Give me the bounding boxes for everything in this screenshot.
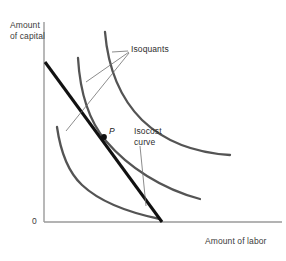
origin-label: 0 <box>32 216 37 226</box>
point-p-label: P <box>109 126 115 136</box>
y-axis-label: Amount of capital <box>10 20 45 41</box>
x-axis-label: Amount of labor <box>205 236 267 247</box>
isocost-annotation-label: Isocost curve <box>134 126 162 148</box>
tangency-point-marker <box>101 134 107 140</box>
leader-line-isoquant-low <box>66 53 129 131</box>
isoquants-annotation-label: Isoquants <box>131 44 169 55</box>
leader-line-isoquant-high <box>112 51 128 52</box>
isoquant-isocost-figure: Amount of capital Amount of labor 0 Isoq… <box>0 0 286 261</box>
